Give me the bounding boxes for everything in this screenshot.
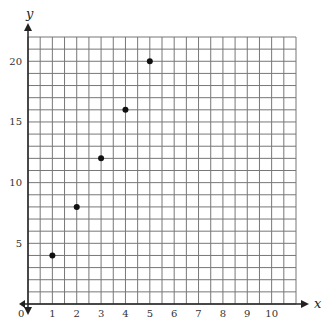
x-tick-label: 5 [147,308,153,319]
origin-label: 0 [18,308,24,319]
data-point [49,252,55,258]
x-tick-label: 10 [265,308,278,319]
x-tick-label: 8 [220,308,226,319]
x-arrow-right-icon [301,300,309,308]
data-point [98,155,104,161]
x-tick-label: 4 [122,308,128,319]
x-tick-label: 9 [244,308,250,319]
y-tick-label: 5 [16,238,22,249]
data-point [122,107,128,113]
data-point [74,204,80,210]
data-point [147,58,153,64]
y-tick-label: 15 [9,116,22,127]
x-tick-label: 6 [171,308,177,319]
x-tick-label: 2 [74,308,80,319]
y-tick-label: 20 [9,56,22,67]
x-tick-label: 7 [195,308,201,319]
grid [28,37,296,304]
axes [19,23,309,315]
x-axis-label: x [314,296,322,311]
x-tick-label: 1 [49,308,55,319]
y-tick-label: 10 [9,177,22,188]
y-arrow-down-icon [24,307,32,315]
y-arrow-up-icon [24,23,32,31]
x-arrow-left-icon [19,300,25,308]
x-tick-label: 3 [98,308,104,319]
coordinate-plane: 123456789105101520 x y 0 [0,0,327,328]
y-axis-label: y [25,6,34,21]
